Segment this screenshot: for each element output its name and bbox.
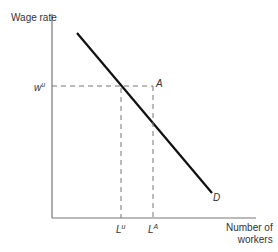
la-label-sup: A: [154, 223, 159, 230]
wage-union-label: wu: [34, 81, 45, 93]
x-axis-label: Number of workers: [226, 223, 273, 245]
wage-label-sup: u: [41, 81, 45, 88]
demand-curve: [77, 33, 212, 193]
demand-label: D: [213, 193, 220, 203]
diagram-canvas: [0, 0, 278, 252]
point-a-label: A: [156, 79, 163, 89]
x-axis-label-line1: Number of: [226, 223, 273, 233]
y-axis-label: Wage rate: [11, 13, 57, 23]
lu-label-sup: u: [122, 223, 126, 230]
lu-label: Lu: [116, 223, 125, 235]
la-label: LA: [148, 223, 158, 235]
x-axis-label-line2: workers: [226, 235, 273, 245]
